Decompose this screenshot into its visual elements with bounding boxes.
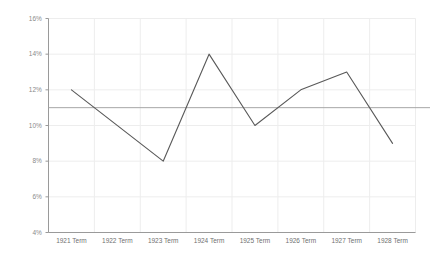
- y-axis-tick-label: 14%: [18, 50, 42, 58]
- y-axis-tick-label: 12%: [18, 86, 42, 94]
- y-axis-tick-label: 4%: [18, 229, 42, 237]
- grid-lines: [49, 19, 416, 233]
- y-axis-tick-label: 16%: [18, 15, 42, 23]
- x-axis-tick-label: 1926 Term: [278, 236, 324, 245]
- y-axis-tick-label: 6%: [18, 193, 42, 201]
- x-axis-tick-label: 1924 Term: [186, 236, 232, 245]
- x-axis-tick-label: 1922 Term: [94, 236, 140, 245]
- chart-canvas: [0, 0, 430, 256]
- x-axis-tick-label: 1921 Term: [49, 236, 95, 245]
- x-axis-tick-label: 1923 Term: [140, 236, 186, 245]
- y-axis-tick-label: 8%: [18, 157, 42, 165]
- x-axis-tick-label: 1925 Term: [232, 236, 278, 245]
- x-axis-tick-label: 1927 Term: [324, 236, 370, 245]
- x-axis-tick-label: 1928 Term: [370, 236, 416, 245]
- line-chart: 16%14%12%10%8%6%4% 1921 Term1922 Term192…: [0, 0, 430, 256]
- y-axis-tick-label: 10%: [18, 122, 42, 130]
